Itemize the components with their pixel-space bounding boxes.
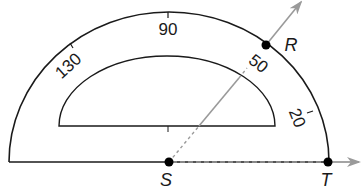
scale-label-50: 50 [245, 50, 272, 77]
label-t: T [321, 170, 334, 190]
point-s [165, 158, 174, 167]
label-r: R [285, 35, 298, 55]
protractor-diagram: 130 90 50 20 S R T [0, 0, 362, 191]
point-r [262, 41, 271, 50]
ray-sr-dashed [169, 126, 199, 162]
ray-sr [199, 78, 239, 126]
scale-label-20: 20 [285, 106, 310, 131]
scale-label-90: 90 [159, 20, 178, 39]
point-t [324, 158, 333, 167]
protractor-inner-arc [59, 56, 275, 126]
label-s: S [160, 170, 172, 190]
tick-20 [307, 111, 313, 113]
